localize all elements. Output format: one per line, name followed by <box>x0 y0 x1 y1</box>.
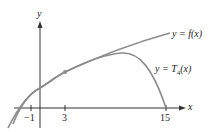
y-axis-label: y <box>37 9 41 19</box>
center-point <box>63 70 67 74</box>
label-t4: y = T4(x) <box>155 64 191 77</box>
tick-label-3: 3 <box>62 113 67 123</box>
curve-f <box>13 33 170 124</box>
label-t4-prefix: y = <box>155 63 171 74</box>
label-f-arg: (x) <box>191 28 202 39</box>
tick-label-minus-1: −1 <box>24 113 35 123</box>
x-axis-arrow-icon <box>179 106 186 111</box>
label-f: y = f(x) <box>172 29 202 39</box>
label-t4-arg: (x) <box>180 63 191 74</box>
tick-label-15: 15 <box>160 113 170 123</box>
x-axis-label: x <box>188 102 192 112</box>
y-axis-arrow-icon <box>38 21 43 28</box>
label-f-prefix: y = <box>172 28 188 39</box>
